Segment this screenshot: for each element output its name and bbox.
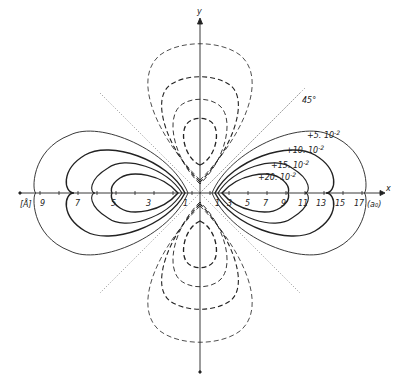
contour-label-20: +20. 10-2 xyxy=(258,171,296,182)
axes xyxy=(19,18,385,373)
contour-label-10: +10. 10-2 xyxy=(286,144,324,155)
x-tick-label: 3 xyxy=(227,199,232,208)
x-tick-label: 13 xyxy=(316,199,326,208)
x-tick-label: 5 xyxy=(245,199,250,208)
x-tick-label: 5 xyxy=(111,199,116,208)
left-unit-label: [Å] xyxy=(20,198,32,209)
x-axis-label: x xyxy=(385,184,391,193)
x-tick-label: 9 xyxy=(40,199,45,208)
x-tick-label: 7 xyxy=(263,199,269,208)
x-tick-label: 3 xyxy=(146,199,151,208)
svg-text:+10. 10-2: +10. 10-2 xyxy=(286,144,324,155)
orbital-contour-diagram: x y [Å] (a₀) 9 7 5 3 1 1 3 5 7 9 11 13 1… xyxy=(0,0,399,387)
x-tick-label: 1 xyxy=(183,199,188,208)
contour-label-15: +15. 10-2 xyxy=(271,159,309,170)
contour-label-5: +5. 10-2 xyxy=(307,129,340,140)
svg-text:+5. 10-2: +5. 10-2 xyxy=(307,129,340,140)
x-tick-label: 15 xyxy=(335,199,345,208)
svg-text:+20. 10-2: +20. 10-2 xyxy=(258,171,296,182)
x-tick-label: 7 xyxy=(75,199,81,208)
svg-text:+15. 10-2: +15. 10-2 xyxy=(271,159,309,170)
x-tick-label: 1 xyxy=(215,199,220,208)
x-tick-label: 11 xyxy=(298,199,308,208)
y-axis-label: y xyxy=(196,7,202,16)
right-unit-label: (a₀) xyxy=(367,200,381,209)
x-tick-label: 17 xyxy=(354,199,365,208)
y-axis-arrow-icon xyxy=(198,18,203,24)
angle-label: 45° xyxy=(302,96,316,105)
x-axis-arrow-icon xyxy=(380,191,385,196)
x-tick-label: 9 xyxy=(281,199,286,208)
